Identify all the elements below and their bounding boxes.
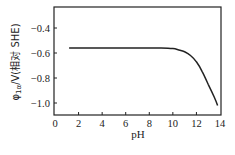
series-line (69, 48, 218, 106)
y-axis-label-unit: /V(相对 SHE) (9, 23, 21, 84)
x-tick-label: 12 (191, 118, 202, 129)
x-tick-label: 10 (168, 118, 179, 129)
x-tick-label: 2 (76, 118, 81, 129)
y-axis-label: φ1α/V(相对 SHE) (9, 23, 23, 100)
y-axis-label-subscript: 1α (15, 84, 23, 93)
y-tick-label: −1.0 (31, 98, 50, 109)
chart: 02468101214−0.4−0.6−0.8−1.0 pH φ1α/V(相对 … (0, 0, 235, 155)
y-tick-label: −0.4 (31, 23, 51, 34)
x-tick-label: 0 (52, 118, 57, 129)
y-tick-label: −0.8 (31, 73, 50, 84)
x-tick-label: 14 (215, 118, 226, 129)
plot-area: 02468101214−0.4−0.6−0.8−1.0 (31, 7, 226, 129)
x-tick-label: 6 (123, 118, 128, 129)
y-tick-label: −0.6 (31, 48, 50, 59)
x-tick-label: 4 (100, 118, 106, 129)
x-tick-label: 8 (147, 118, 152, 129)
x-axis-label: pH (131, 128, 145, 140)
